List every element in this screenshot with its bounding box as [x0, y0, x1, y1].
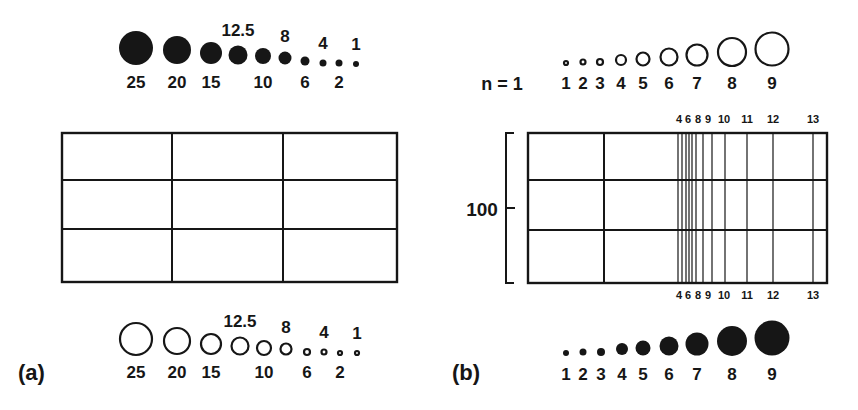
- legend-label-8: 8: [280, 28, 289, 45]
- legend-label-9: 9: [767, 366, 776, 383]
- legend-circle-6: [304, 349, 310, 355]
- legend-circle-1: [353, 61, 359, 67]
- legend-label-2: 2: [334, 74, 343, 91]
- panel-b-y-axis-bracket: [505, 133, 515, 283]
- legend-label-15: 15: [202, 74, 221, 91]
- legend-label-4: 4: [319, 324, 328, 341]
- panel-b-bottom-legend-circles: [563, 321, 790, 357]
- legend-label-5: 5: [638, 366, 647, 383]
- legend-label-4: 4: [617, 366, 626, 383]
- legend-circle-6: [660, 337, 679, 356]
- legend-label-4: 4: [616, 75, 625, 92]
- grid-line-label-bottom-6: 6: [685, 290, 691, 301]
- legend-circle-20: [163, 36, 191, 64]
- legend-circle-12.5: [232, 338, 249, 355]
- grid-line-label-top-10: 10: [718, 114, 730, 125]
- legend-label-6: 6: [302, 364, 311, 381]
- legend-circle-12.5: [229, 46, 248, 65]
- grid-line-label-bottom-4: 4: [676, 290, 682, 301]
- legend-circle-8: [281, 344, 292, 355]
- legend-circle-7: [687, 45, 708, 66]
- legend-circle-1: [563, 350, 569, 356]
- grid-line-label-bottom-10: 10: [718, 290, 730, 301]
- legend-circle-5: [636, 341, 651, 356]
- legend-label-2: 2: [578, 75, 587, 92]
- legend-circle-4: [616, 55, 626, 65]
- legend-circle-8: [717, 326, 747, 356]
- grid-line-label-top-11: 11: [741, 114, 753, 125]
- legend-circle-9: [755, 321, 790, 356]
- legend-label-5: 5: [638, 75, 647, 92]
- legend-label-8: 8: [727, 75, 736, 92]
- legend-circle-9: [756, 33, 789, 66]
- legend-label-1: 1: [352, 325, 361, 342]
- legend-label-2: 2: [578, 366, 587, 383]
- legend-circle-4: [320, 60, 327, 67]
- panel-b-top-legend-circles: [564, 33, 789, 67]
- legend-circle-5: [637, 53, 650, 66]
- grid-line-label-top-9: 9: [705, 114, 711, 125]
- legend-circle-1: [564, 61, 568, 65]
- legend-label-9: 9: [767, 75, 776, 92]
- legend-circle-4: [322, 350, 327, 355]
- panel-a-label: (a): [18, 362, 45, 384]
- legend-label-8: 8: [281, 319, 290, 336]
- legend-circle-7: [686, 333, 709, 356]
- legend-label-2: 2: [335, 364, 344, 381]
- grid-line-label-top-12: 12: [767, 114, 779, 125]
- legend-label-1: 1: [351, 36, 360, 53]
- legend-circle-2: [338, 351, 342, 355]
- legend-circle-8: [279, 52, 292, 65]
- legend-label-4: 4: [318, 35, 327, 52]
- legend-circle-15: [201, 334, 221, 354]
- legend-label-8: 8: [727, 366, 736, 383]
- legend-label-1: 1: [561, 75, 570, 92]
- legend-circle-1: [355, 351, 359, 355]
- legend-label-6: 6: [664, 75, 673, 92]
- grid-line-label-top-13: 13: [807, 114, 819, 125]
- legend-circle-8: [718, 38, 746, 66]
- grid-line-label-top-6: 6: [685, 114, 691, 125]
- legend-circle-10: [255, 48, 271, 64]
- legend-label-20: 20: [168, 74, 187, 91]
- legend-circle-3: [597, 348, 605, 356]
- panel-b-n-label: n = 1: [481, 75, 523, 93]
- grid-line-label-bottom-8: 8: [695, 290, 701, 301]
- legend-label-20: 20: [168, 364, 187, 381]
- grid-line-label-top-8: 8: [695, 114, 701, 125]
- legend-label-3: 3: [596, 366, 605, 383]
- legend-label-15: 15: [202, 364, 221, 381]
- legend-label-1: 1: [561, 366, 570, 383]
- legend-label-10: 10: [254, 74, 273, 91]
- panel-b-axis-tick-label: 100: [466, 200, 498, 219]
- panel-b-grid: [528, 133, 827, 283]
- legend-label-6: 6: [300, 74, 309, 91]
- figure-canvas: [0, 0, 858, 410]
- panel-a-grid: [62, 133, 397, 282]
- grid-line-label-bottom-12: 12: [767, 290, 779, 301]
- panel-b-label: (b): [452, 362, 480, 384]
- legend-circle-10: [257, 341, 271, 355]
- legend-circle-3: [597, 59, 603, 65]
- legend-label-25: 25: [127, 74, 146, 91]
- grid-line-label-bottom-13: 13: [807, 290, 819, 301]
- legend-label-6: 6: [664, 366, 673, 383]
- legend-circle-4: [616, 343, 628, 355]
- legend-circle-6: [661, 49, 678, 66]
- legend-label-12.5: 12.5: [221, 22, 254, 39]
- legend-circle-2: [580, 349, 587, 356]
- legend-circle-2: [581, 60, 586, 65]
- legend-label-7: 7: [692, 366, 701, 383]
- grid-line-label-top-4: 4: [676, 114, 682, 125]
- grid-line-label-bottom-11: 11: [741, 290, 753, 301]
- legend-circle-20: [164, 328, 190, 354]
- legend-circle-2: [336, 60, 343, 67]
- legend-label-10: 10: [255, 364, 274, 381]
- legend-label-7: 7: [692, 75, 701, 92]
- legend-circle-25: [120, 323, 152, 355]
- legend-label-12.5: 12.5: [223, 313, 256, 330]
- legend-circle-25: [119, 31, 153, 65]
- legend-circle-6: [301, 57, 310, 66]
- grid-line-label-bottom-9: 9: [705, 290, 711, 301]
- legend-label-25: 25: [127, 364, 146, 381]
